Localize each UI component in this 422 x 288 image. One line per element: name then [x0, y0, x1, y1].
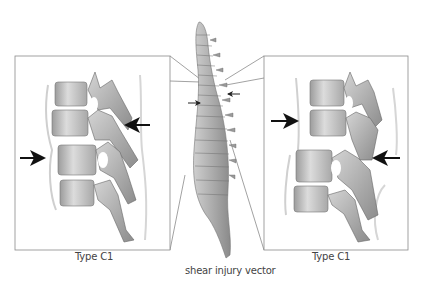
left-panel-label: Type C1 [75, 251, 113, 262]
center-caption: shear injury vector [185, 265, 275, 276]
diagram-graphics [0, 0, 422, 288]
spinal-column-illustration [188, 22, 240, 258]
spine-shear-injury-diagram: Type C1 Type C1 shear injury vector [0, 0, 422, 288]
right-panel-label: Type C1 [312, 251, 350, 262]
